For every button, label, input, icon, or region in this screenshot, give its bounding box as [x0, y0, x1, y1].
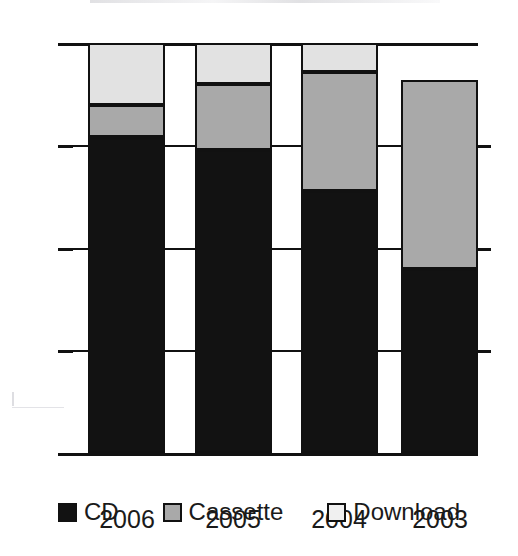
- bar-2006-segment-cd: [88, 137, 165, 453]
- bar-2004-segment-cassette: [301, 72, 378, 191]
- bar-2006-segment-cassette: [88, 105, 165, 138]
- plot-area: 2006 2005 2004 2003: [72, 43, 478, 453]
- bar-2006-segment-download: [88, 43, 165, 105]
- axis-line-bottom: [72, 453, 478, 456]
- y-tick-0: [58, 453, 73, 456]
- bar-2003-segment-cd: [401, 269, 478, 454]
- legend-item-download[interactable]: Download: [327, 500, 460, 524]
- bar-2004-segment-cd: [301, 191, 378, 453]
- bar-2004-segment-download: [301, 43, 378, 72]
- legend-label-cassette: Cassette: [189, 500, 284, 524]
- stacked-bar-chart: 100 75 50 25 0: [0, 0, 518, 556]
- scan-artifact-top: [90, 0, 440, 3]
- legend-swatch-cd-icon: [58, 503, 77, 522]
- y-tick-100: [58, 43, 73, 46]
- y-tick-right-75: [476, 145, 491, 148]
- legend-label-download: Download: [353, 500, 460, 524]
- scan-artifact-corner: [12, 392, 64, 408]
- y-tick-right-25: [476, 350, 491, 353]
- y-tick-right-50: [476, 248, 491, 251]
- y-tick-50: [58, 248, 73, 251]
- legend-swatch-download-icon: [327, 503, 346, 522]
- bar-2005-segment-download: [195, 43, 272, 84]
- bar-2005-segment-cassette: [195, 84, 272, 150]
- legend-swatch-cassette-icon: [163, 503, 182, 522]
- legend-item-cassette[interactable]: Cassette: [163, 500, 284, 524]
- y-tick-75: [58, 145, 73, 148]
- legend-item-cd[interactable]: CD: [58, 500, 119, 524]
- bar-2003-segment-cassette: [401, 80, 478, 269]
- chart-legend: CD Cassette Download: [0, 500, 518, 524]
- legend-label-cd: CD: [84, 500, 119, 524]
- y-tick-25: [58, 350, 73, 353]
- bar-2005-segment-cd: [195, 150, 272, 453]
